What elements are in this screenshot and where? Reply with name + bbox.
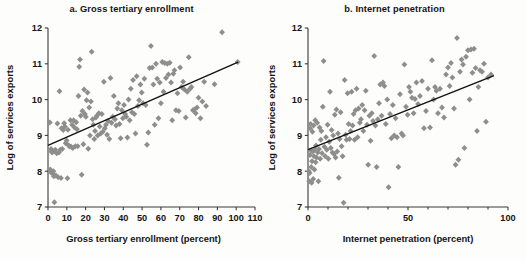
- data-point-marker: [336, 175, 342, 181]
- data-point-marker: [342, 77, 348, 83]
- data-point-marker: [339, 143, 345, 149]
- data-point-marker: [376, 100, 382, 106]
- data-point-marker: [443, 72, 449, 78]
- data-point-marker: [51, 199, 57, 205]
- data-point-marker: [332, 112, 338, 118]
- data-point-marker: [125, 135, 131, 141]
- data-point-marker: [118, 135, 124, 141]
- data-point-marker: [325, 122, 331, 128]
- data-point-marker: [435, 110, 441, 116]
- data-point-marker: [152, 122, 158, 128]
- x-tick-label: 70: [175, 213, 185, 223]
- data-point-marker: [459, 57, 465, 63]
- data-point-marker: [168, 79, 174, 85]
- data-point-marker: [108, 75, 114, 81]
- data-point-marker: [141, 76, 147, 82]
- data-point-marker: [454, 35, 460, 41]
- data-point-marker: [447, 83, 453, 89]
- data-point-marker: [183, 115, 189, 121]
- data-point-marker: [219, 29, 225, 35]
- y-tick-label: 8: [297, 167, 302, 177]
- y-tick-label: 9: [297, 131, 302, 141]
- data-point-marker: [371, 53, 377, 59]
- data-point-marker: [111, 93, 117, 99]
- data-point-marker: [77, 57, 83, 63]
- data-point-marker: [476, 84, 482, 90]
- data-point-marker: [64, 175, 70, 181]
- data-point-marker: [316, 178, 322, 184]
- data-point-marker: [462, 145, 468, 151]
- data-point-marker: [327, 89, 333, 95]
- x-tick-label: 0: [305, 213, 310, 223]
- axis-lines: [48, 28, 255, 207]
- x-tick-label: 100: [500, 213, 515, 223]
- data-point-marker: [354, 86, 360, 92]
- data-point-marker: [383, 121, 389, 127]
- x-tick-label: 10: [62, 213, 72, 223]
- data-point-marker: [150, 82, 156, 88]
- data-point-marker: [148, 43, 154, 49]
- data-point-marker: [450, 74, 456, 80]
- data-point-marker: [445, 64, 451, 70]
- data-point-marker: [396, 164, 402, 170]
- y-tick-label: 8: [37, 167, 42, 177]
- data-point-marker: [80, 141, 86, 147]
- data-point-marker: [483, 119, 489, 125]
- data-point-marker: [448, 60, 454, 66]
- x-tick-label: 60: [156, 213, 166, 223]
- data-point-marker: [101, 79, 107, 85]
- data-point-marker: [417, 93, 423, 99]
- data-point-marker: [411, 110, 417, 116]
- x-tick-label: 40: [118, 213, 128, 223]
- data-point-marker: [419, 78, 425, 84]
- y-tick-label: 7: [37, 202, 42, 212]
- x-axis-title: Internet penetration (percent): [343, 233, 474, 244]
- data-point-marker: [386, 184, 392, 190]
- data-point-marker: [340, 153, 346, 159]
- data-point-marker: [158, 100, 164, 106]
- y-tick-label: 10: [32, 95, 42, 105]
- y-tick-label: 10: [292, 95, 302, 105]
- data-point-marker: [180, 79, 186, 85]
- data-point-marker: [421, 125, 427, 131]
- x-tick-label: 0: [45, 213, 50, 223]
- panel-b-plot: 789101112050100Internet penetration (per…: [263, 0, 526, 261]
- data-point-marker: [196, 95, 202, 101]
- axis-lines: [308, 28, 508, 207]
- data-point-marker: [330, 132, 336, 138]
- data-point-marker: [453, 162, 459, 168]
- data-point-marker: [384, 97, 390, 103]
- y-axis-title: Log of services exports: [4, 65, 15, 170]
- data-point-marker: [89, 49, 95, 55]
- data-point-marker: [460, 62, 466, 68]
- data-point-marker: [470, 70, 476, 76]
- data-point-marker: [137, 82, 143, 88]
- data-point-marker: [321, 58, 327, 64]
- data-point-marker: [145, 130, 151, 136]
- x-tick-label: 30: [99, 213, 109, 223]
- data-point-marker: [318, 137, 324, 143]
- data-point-marker: [323, 134, 329, 140]
- data-point-marker: [451, 106, 457, 112]
- data-point-marker: [212, 81, 218, 87]
- data-point-marker: [88, 98, 94, 104]
- data-point-marker: [425, 86, 431, 92]
- data-point-marker: [359, 102, 365, 108]
- data-point-marker: [429, 57, 435, 63]
- data-point-marker: [403, 104, 409, 110]
- y-tick-label: 9: [37, 131, 42, 141]
- data-point-marker: [329, 127, 335, 133]
- data-point-marker: [405, 112, 411, 118]
- data-point-marker: [390, 102, 396, 108]
- data-point-marker: [198, 115, 204, 121]
- data-point-marker: [84, 97, 90, 103]
- x-tick-label: 80: [193, 213, 203, 223]
- data-point-marker: [85, 146, 91, 152]
- trend-line: [48, 62, 238, 145]
- panel-internet-penetration: b. Internet penetration 789101112050100I…: [263, 0, 526, 261]
- x-tick-label: 20: [81, 213, 91, 223]
- data-point-marker: [97, 123, 103, 129]
- data-point-marker: [126, 97, 132, 103]
- y-tick-label: 7: [297, 202, 302, 212]
- data-point-marker: [139, 89, 145, 95]
